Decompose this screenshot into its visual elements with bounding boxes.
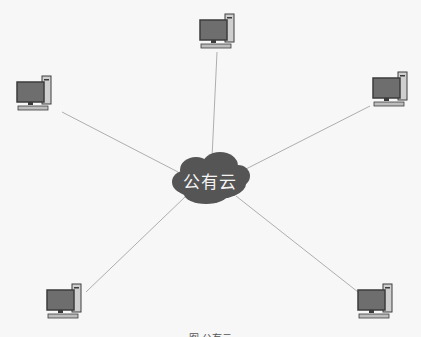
edge-to-pc-top bbox=[212, 52, 217, 158]
edge-to-pc-right bbox=[244, 106, 370, 170]
figure-caption: 图 公有云 bbox=[0, 331, 421, 337]
desktop-computer-icon bbox=[197, 12, 241, 52]
edge-to-pc-left bbox=[62, 112, 178, 172]
cloud-label: 公有云 bbox=[170, 165, 250, 195]
desktop-computer-icon bbox=[14, 74, 58, 114]
edge-to-pc-bottom-left bbox=[86, 196, 186, 292]
desktop-computer-icon bbox=[44, 282, 88, 322]
desktop-computer-icon bbox=[370, 70, 414, 110]
edge-to-pc-bottom-right bbox=[236, 196, 358, 292]
star-network-diagram: 公有云 图 公有云 bbox=[0, 0, 421, 337]
desktop-computer-icon bbox=[355, 282, 399, 322]
